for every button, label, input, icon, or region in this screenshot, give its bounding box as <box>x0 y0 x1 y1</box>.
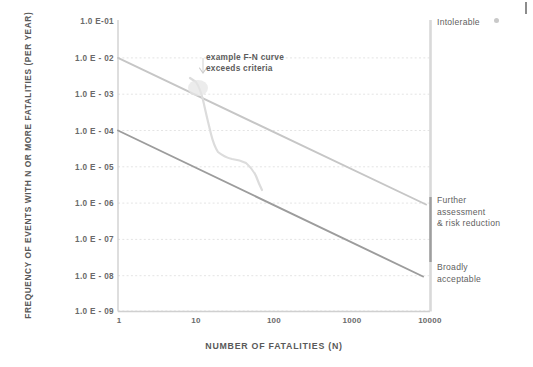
page-corner-mark <box>525 2 527 14</box>
x-axis-title: NUMBER OF FATALITIES (N) <box>118 341 430 351</box>
y-tick-1e-03: 1.0 E - 03 <box>54 90 114 99</box>
y-tick-1e-07: 1.0 E - 07 <box>54 235 114 244</box>
x-tick-1: 1 <box>117 316 122 325</box>
zone-label-broadly-acceptable: Broadly acceptable <box>437 262 481 285</box>
y-axis-title: FREQUENCY OF EVENTS WITH N OR MORE FATAL… <box>6 0 52 330</box>
y-tick-1e-05: 1.0 E - 05 <box>54 162 114 171</box>
x-tick-10000: 10000 <box>418 316 442 325</box>
x-tick-1000: 1000 <box>343 316 362 325</box>
y-tick-1e-04: 1.0 E - 04 <box>54 126 114 135</box>
fn-criteria-chart: 1.0 E-01 1.0 E - 02 1.0 E - 03 1.0 E - 0… <box>0 0 533 367</box>
page-corner-dot <box>494 18 499 23</box>
zone-label-intolerable: Intolerable <box>437 17 480 29</box>
y-tick-1e-09: 1.0 E - 09 <box>54 307 114 316</box>
y-tick-1e-06: 1.0 E - 06 <box>54 199 114 208</box>
x-tick-100: 100 <box>267 316 281 325</box>
y-tick-1e-01: 1.0 E-01 <box>54 17 114 26</box>
zone-label-further-assessment: Further assessment & risk reduction <box>437 195 500 230</box>
y-tick-1e-08: 1.0 E - 08 <box>54 271 114 280</box>
x-tick-10: 10 <box>191 316 201 325</box>
example-curve-annotation: example F-N curve exceeds criteria <box>206 52 284 75</box>
curve-crossing-highlight <box>188 80 208 96</box>
upper-criterion-line <box>118 58 426 205</box>
y-tick-labels: 1.0 E-01 1.0 E - 02 1.0 E - 03 1.0 E - 0… <box>52 0 114 367</box>
y-tick-1e-02: 1.0 E - 02 <box>54 53 114 62</box>
y-axis-title-text: FREQUENCY OF EVENTS WITH N OR MORE FATAL… <box>23 11 36 318</box>
